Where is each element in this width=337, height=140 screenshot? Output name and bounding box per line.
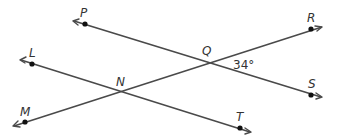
- point-p: [82, 21, 87, 26]
- point-t: [237, 125, 242, 130]
- line-lt: [20, 57, 251, 134]
- point-s: [308, 92, 313, 97]
- angle-label-34: 34°: [233, 58, 254, 72]
- point-l: [29, 61, 34, 66]
- label-s: S: [308, 77, 316, 91]
- label-l: L: [29, 46, 36, 60]
- line-ps: [73, 19, 322, 99]
- label-q: Q: [202, 44, 211, 58]
- label-m: M: [20, 105, 31, 119]
- label-n: N: [116, 75, 125, 89]
- line-mr: [13, 26, 322, 127]
- label-p: P: [80, 6, 88, 20]
- point-r: [308, 26, 313, 31]
- point-m: [22, 119, 27, 124]
- geometry-diagram: P R Q 34° L N M S T: [0, 0, 337, 140]
- label-r: R: [307, 11, 315, 25]
- label-t: T: [236, 110, 245, 124]
